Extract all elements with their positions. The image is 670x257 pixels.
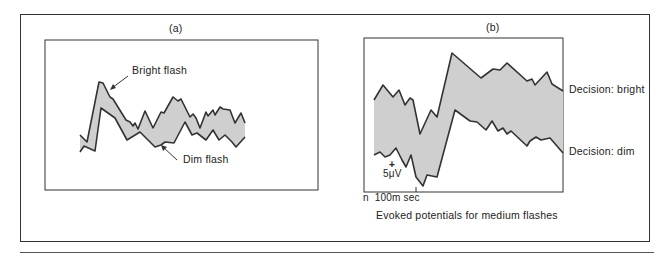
bright-flash-label: Bright flash <box>132 64 187 76</box>
dim-flash-arrow <box>163 147 177 160</box>
panel-b-label: (b) <box>486 21 499 33</box>
waveform-plots <box>0 0 670 257</box>
panel-a-difference-band <box>80 82 245 152</box>
panel-b-caption: Evoked potentials for medium flashes <box>376 209 558 221</box>
separator-rule <box>20 252 654 253</box>
time-scale-label: n 100m sec <box>363 192 420 203</box>
decision-dim-label: Decision: dim <box>569 145 635 157</box>
panel-a-label: (a) <box>169 22 182 34</box>
arrowhead-icon <box>110 84 116 90</box>
dim-flash-label: Dim flash <box>183 153 229 165</box>
voltage-scale-label: 5μV <box>383 168 402 179</box>
decision-bright-label: Decision: bright <box>569 83 645 95</box>
